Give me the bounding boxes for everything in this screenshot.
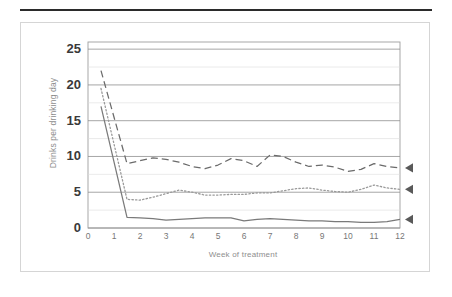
y-tick-label: 20	[55, 78, 81, 91]
x-tick-label: 9	[312, 231, 332, 241]
y-axis-tick-labels: 0510152025	[53, 0, 81, 297]
y-tick-label: 5	[55, 185, 81, 198]
x-tick-label: 4	[182, 231, 202, 241]
x-tick-label: 7	[260, 231, 280, 241]
x-tick-label: 2	[130, 231, 150, 241]
x-tick-label: 12	[390, 231, 410, 241]
x-tick-label: 6	[234, 231, 254, 241]
y-tick-label: 25	[55, 42, 81, 55]
x-tick-label: 0	[78, 231, 98, 241]
endpoint-left-triangle-icon	[405, 215, 413, 224]
line-chart: Drinks per drinking day 0510152025 Week …	[0, 0, 452, 297]
plot-frame	[88, 42, 400, 228]
endpoint-left-triangle-icon	[405, 163, 413, 172]
y-tick-label: 10	[55, 149, 81, 162]
x-axis-title: Week of treatment	[88, 250, 398, 259]
y-tick-label: 15	[55, 114, 81, 127]
endpoint-left-triangle-icon	[405, 185, 413, 194]
x-tick-label: 8	[286, 231, 306, 241]
x-tick-label: 11	[364, 231, 384, 241]
x-tick-label: 1	[104, 231, 124, 241]
x-tick-label: 5	[208, 231, 228, 241]
x-tick-label: 10	[338, 231, 358, 241]
x-tick-label: 3	[156, 231, 176, 241]
